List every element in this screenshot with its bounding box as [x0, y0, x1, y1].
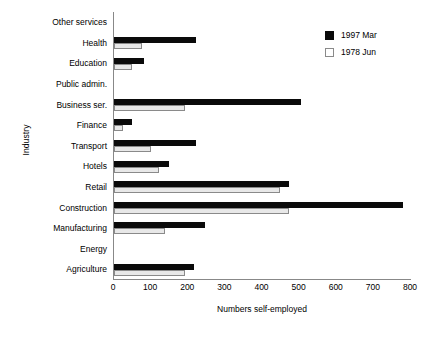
- x-tick-label: 700: [366, 282, 380, 292]
- x-tick-label: 100: [143, 282, 157, 292]
- bar-group: [114, 198, 411, 219]
- bar-row: Finance: [113, 115, 411, 136]
- x-tick-label: 300: [217, 282, 231, 292]
- y-axis-title: Industry: [16, 0, 36, 280]
- x-tick-label: 600: [329, 282, 343, 292]
- y-axis-title-text: Industry: [21, 124, 31, 155]
- x-tick-label: 400: [254, 282, 268, 292]
- bar-1: [114, 270, 185, 276]
- bar-1: [114, 43, 142, 49]
- x-tick-label: 0: [111, 282, 116, 292]
- legend-label: 1997 Mar: [341, 30, 377, 40]
- bar-row: Transport: [113, 136, 411, 157]
- bar-group: [114, 259, 411, 280]
- bar-group: [114, 218, 411, 239]
- x-axis-title: Numbers self-employed: [113, 304, 411, 314]
- bar-group: [114, 156, 411, 177]
- bar-1: [114, 125, 123, 131]
- category-label: Education: [69, 53, 113, 74]
- category-label: Hotels: [83, 156, 113, 177]
- legend: 1997 Mar1978 Jun: [325, 30, 377, 57]
- bar-group: [114, 115, 411, 136]
- category-label: Health: [82, 33, 113, 54]
- bar-1: [114, 105, 185, 111]
- bar-group: [114, 74, 411, 95]
- bar-row: Agriculture: [113, 259, 411, 280]
- legend-label: 1978 Jun: [341, 47, 376, 57]
- bar-1: [114, 167, 159, 173]
- bar-chart: Industry Other servicesHealthEducationPu…: [0, 0, 437, 339]
- bar-group: [114, 94, 411, 115]
- category-label: Construction: [59, 198, 113, 219]
- bar-row: Public admin.: [113, 74, 411, 95]
- category-label: Public admin.: [56, 74, 113, 95]
- category-label: Agriculture: [66, 259, 113, 280]
- category-label: Retail: [85, 177, 113, 198]
- category-label: Manufacturing: [53, 218, 113, 239]
- bar-group: [114, 136, 411, 157]
- bar-1: [114, 64, 132, 70]
- bar-row: Energy: [113, 239, 411, 260]
- x-tick-label: 200: [180, 282, 194, 292]
- bar-1: [114, 208, 289, 214]
- x-tick-label: 500: [292, 282, 306, 292]
- bar-row: Retail: [113, 177, 411, 198]
- bar-1: [114, 228, 165, 234]
- legend-item: 1997 Mar: [325, 30, 377, 40]
- bar-1: [114, 187, 280, 193]
- bar-group: [114, 177, 411, 198]
- x-tick-label: 800: [403, 282, 417, 292]
- category-label: Energy: [80, 239, 113, 260]
- legend-swatch-icon: [325, 31, 334, 40]
- x-axis-ticks: 0100200300400500600700800: [113, 282, 411, 296]
- bar-1: [114, 146, 151, 152]
- category-label: Finance: [77, 115, 113, 136]
- bar-group: [114, 239, 411, 260]
- legend-item: 1978 Jun: [325, 47, 377, 57]
- bar-row: Construction: [113, 198, 411, 219]
- bar-row: Manufacturing: [113, 218, 411, 239]
- category-label: Other services: [52, 12, 113, 33]
- category-label: Transport: [71, 136, 113, 157]
- legend-swatch-icon: [325, 48, 334, 57]
- x-axis-title-text: Numbers self-employed: [217, 304, 307, 314]
- bar-row: Business ser.: [113, 94, 411, 115]
- category-label: Business ser.: [56, 94, 113, 115]
- bar-row: Hotels: [113, 156, 411, 177]
